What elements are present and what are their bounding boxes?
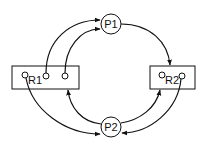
edge-p2-to-r1 <box>68 90 101 124</box>
r2-instance-2 <box>179 73 185 79</box>
process-p1: P1 <box>101 14 121 34</box>
edge-r1-to-p1-outer <box>46 20 100 73</box>
r1-instance-2 <box>43 73 49 79</box>
edge-p2-to-r2 <box>121 90 160 123</box>
edge-p1-to-r2 <box>121 24 170 65</box>
r1-label: R1 <box>28 74 42 86</box>
process-p2: P2 <box>101 117 121 137</box>
p2-label: P2 <box>104 121 117 133</box>
resource-r2: R2 <box>150 66 195 89</box>
r2-label: R2 <box>165 74 179 86</box>
edge-r1-to-p2 <box>26 78 100 134</box>
p1-label: P1 <box>104 18 117 30</box>
r1-instance-3 <box>62 73 68 79</box>
resource-allocation-graph: R1 R2 P1 P2 <box>0 0 205 147</box>
